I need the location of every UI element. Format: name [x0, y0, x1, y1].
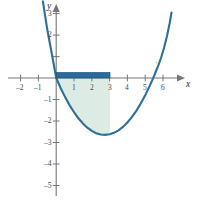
- x-tick-label-4: 4: [125, 84, 129, 92]
- y-tick-label--5: –5: [44, 182, 52, 190]
- y-axis-arrowhead: [53, 4, 60, 12]
- y-tick-label--3: –3: [44, 139, 52, 147]
- x-tick-label--1: –1: [34, 84, 42, 92]
- y-tick-label--1: –1: [44, 96, 52, 104]
- graph-figure: –2 –1 1 2 3 4 5 6 3 2 –1 –2 –3 –4 –5 y x: [0, 0, 198, 201]
- y-axis-label: y: [47, 2, 51, 12]
- x-tick-label--2: –2: [16, 84, 24, 92]
- x-tick-label-1: 1: [72, 84, 76, 92]
- interval-bar: [56, 72, 110, 78]
- y-tick-label-2: 2: [48, 31, 52, 39]
- x-tick-label-3: 3: [108, 84, 112, 92]
- x-tick-label-5: 5: [143, 84, 147, 92]
- plot-canvas: [0, 0, 198, 201]
- scan-speck: [156, 62, 157, 63]
- x-tick-label-2: 2: [90, 84, 94, 92]
- x-tick-label-6: 6: [161, 84, 165, 92]
- x-axis-label: x: [186, 80, 190, 90]
- y-tick-label--2: –2: [44, 117, 52, 125]
- x-axis-arrowhead: [177, 74, 185, 81]
- y-tick-label--4: –4: [44, 160, 52, 168]
- shaded-region: [56, 78, 110, 135]
